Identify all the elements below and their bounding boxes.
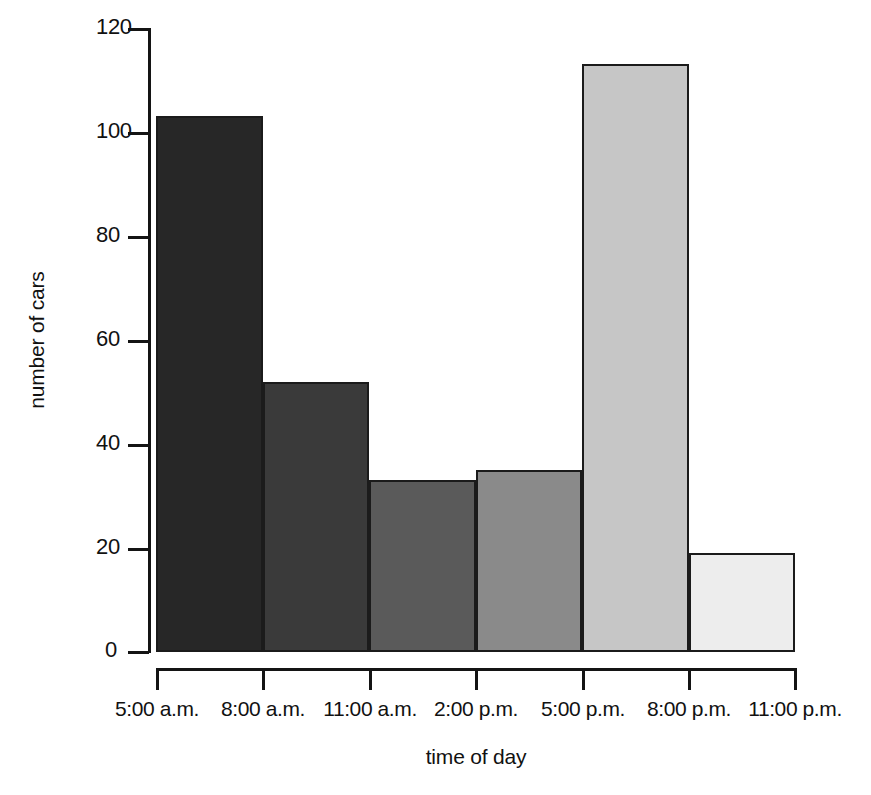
x-axis-tick-4	[582, 668, 585, 690]
x-axis-tick-label-3: 2:00 p.m.	[434, 697, 518, 721]
y-axis-tick-120: 120	[128, 28, 149, 31]
y-axis-tick-label-60: 60	[96, 326, 117, 352]
x-axis-tick-6	[794, 668, 797, 690]
y-axis-tick-label-20: 20	[96, 534, 117, 560]
y-axis-tick-label-80: 80	[96, 222, 117, 248]
bar-4	[582, 64, 689, 652]
y-axis-tick-label-120: 120	[96, 14, 117, 40]
x-axis-tick-3	[475, 668, 478, 690]
x-axis-tick-label-2: 11:00 a.m.	[323, 697, 417, 721]
y-axis-tick-100: 100	[128, 132, 149, 135]
x-axis-tick-0	[156, 668, 159, 690]
x-axis-tick-label-6: 11:00 p.m.	[748, 697, 842, 721]
y-axis-tick-40: 40	[128, 444, 149, 447]
y-axis-tick-label-0: 0	[96, 637, 117, 663]
x-axis-title: time of day	[156, 745, 796, 769]
bar-3	[476, 470, 583, 652]
y-axis-tick-0: 0	[128, 651, 149, 654]
y-axis-title: number of cars	[20, 28, 54, 652]
bar-2	[369, 480, 476, 652]
x-axis-tick-label-0: 5:00 a.m.	[115, 697, 199, 721]
x-axis-tick-label-4: 5:00 p.m.	[541, 697, 625, 721]
bar-1	[263, 382, 370, 652]
y-axis-tick-80: 80	[128, 236, 149, 239]
bar-0	[156, 116, 263, 652]
y-axis-tick-60: 60	[128, 340, 149, 343]
x-axis-tick-5	[688, 668, 691, 690]
x-axis-tick-2	[369, 668, 372, 690]
bar-5	[689, 553, 796, 652]
y-axis-tick-label-40: 40	[96, 430, 117, 456]
plot-area	[156, 28, 795, 652]
x-axis-tick-label-1: 8:00 a.m.	[221, 697, 305, 721]
x-axis-tick-1	[262, 668, 265, 690]
y-axis-tick-20: 20	[128, 548, 149, 551]
histogram-chart: number of cars 120 100 80 60 40 20 0 5:0…	[0, 0, 871, 795]
y-axis-tick-label-100: 100	[96, 118, 117, 144]
x-axis-tick-label-5: 8:00 p.m.	[647, 697, 731, 721]
